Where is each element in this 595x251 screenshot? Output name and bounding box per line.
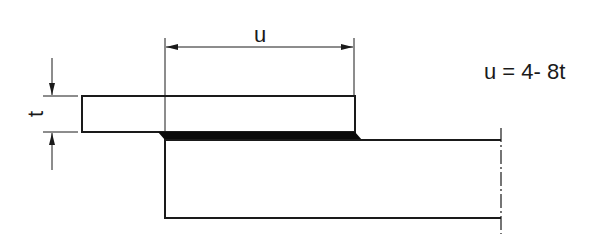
lap-joint-diagram: u t u = 4- 8t — [0, 0, 595, 251]
formula-label: u = 4- 8t — [484, 59, 565, 84]
weld-bead — [158, 132, 362, 140]
t-label: t — [23, 111, 48, 117]
bottom-plate — [165, 140, 501, 218]
u-label: u — [254, 22, 266, 47]
top-plate — [82, 96, 355, 132]
